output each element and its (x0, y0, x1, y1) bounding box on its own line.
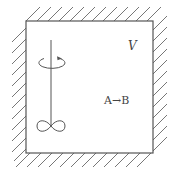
reaction-label: A→B (103, 94, 129, 107)
wall-hatch-left (12, 28, 26, 163)
volume-label: V (128, 39, 138, 53)
reactor-diagram: V A→B (0, 0, 174, 178)
wall-hatch-top (26, 7, 161, 21)
rotation-arrow-icon (39, 56, 65, 68)
wall-hatch-right (153, 16, 167, 151)
wall-hatch-bottom (16, 153, 151, 167)
